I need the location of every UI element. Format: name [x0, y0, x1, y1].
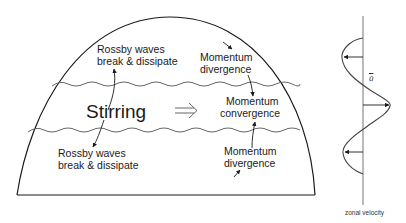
momentum-div-bottom-line2: divergence [224, 158, 277, 170]
lower-wave-line [28, 128, 300, 132]
momentum-div-to-conv-arrow [248, 75, 253, 96]
u-bar-label: ū [369, 75, 373, 84]
zonal-velocity-axis-label: zonal velocity [345, 209, 384, 216]
velocity-curve [342, 38, 390, 174]
rossby-top-line1: Rossby waves [97, 44, 178, 56]
rossby-bottom-line2: break & dissipate [58, 160, 139, 172]
momentum-conv-line1: Momentum [220, 96, 280, 108]
momentum-conv-line2: convergence [220, 108, 280, 120]
rossby-top-label: Rossby waves break & dissipate [97, 44, 178, 68]
momentum-divergence-bottom-label: Momentum divergence [224, 146, 277, 170]
momentum-bottom-in-arrow [234, 170, 240, 177]
momentum-convergence-label: Momentum convergence [220, 96, 280, 120]
zonal-velocity-profile [342, 16, 390, 205]
rossby-top-line2: break & dissipate [97, 56, 178, 68]
momentum-div-bottom-line1: Momentum [224, 146, 277, 158]
zonal-momentum-diagram: Rossby waves break & dissipate Stirring … [0, 0, 406, 223]
stirring-label: Stirring [86, 102, 146, 121]
momentum-div-top-line1: Momentum [200, 52, 253, 64]
momentum-top-in-arrow [223, 42, 232, 49]
momentum-divergence-top-label: Momentum divergence [200, 52, 253, 76]
rossby-bottom-label: Rossby waves break & dissipate [58, 148, 139, 172]
diagram-canvas [0, 0, 406, 223]
momentum-div-top-line2: divergence [200, 64, 253, 76]
rossby-lower-arrow [93, 120, 104, 147]
rossby-bottom-line1: Rossby waves [58, 148, 139, 160]
upper-wave-line [52, 82, 300, 86]
double-right-arrow-icon [175, 103, 197, 118]
